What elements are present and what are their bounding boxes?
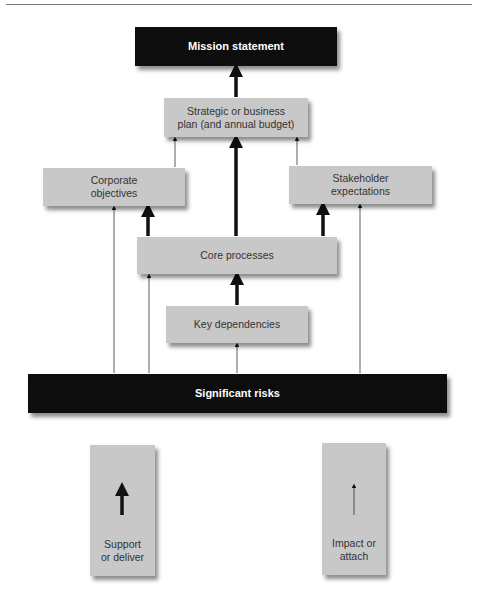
node-core-processes: Core processes — [137, 237, 337, 274]
legend-label-line1: Impact or — [322, 537, 386, 550]
node-label-line2: objectives — [91, 187, 138, 200]
node-corporate-objectives: Corporate objectives — [43, 168, 185, 206]
legend-impact-or-attach: Impact or attach — [322, 443, 386, 575]
node-label-line1: Stakeholder — [332, 172, 388, 185]
node-label: Significant risks — [195, 387, 280, 400]
node-label-line2: plan (and annual budget) — [178, 118, 295, 131]
node-label: Core processes — [200, 249, 274, 262]
node-label-line1: Strategic or business — [187, 105, 285, 118]
node-label-line2: expectations — [331, 185, 390, 198]
node-significant-risks: Significant risks — [28, 374, 447, 413]
legend-label-line2: or deliver — [90, 551, 155, 564]
legend-support-or-deliver: Support or deliver — [90, 445, 155, 576]
legend-label-line1: Support — [90, 538, 155, 551]
node-stakeholder-expectations: Stakeholder expectations — [289, 166, 432, 204]
node-label: Key dependencies — [194, 318, 280, 331]
node-label-line1: Corporate — [91, 174, 138, 187]
node-key-dependencies: Key dependencies — [166, 306, 308, 343]
node-strategic-plan: Strategic or business plan (and annual b… — [164, 98, 308, 137]
legend-label-line2: attach — [322, 550, 386, 563]
node-label: Mission statement — [188, 40, 284, 53]
node-mission-statement: Mission statement — [135, 27, 337, 66]
